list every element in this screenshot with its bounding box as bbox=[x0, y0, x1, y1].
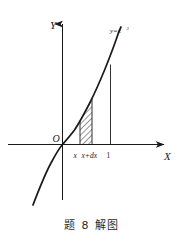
curve-label-exponent: 3 bbox=[127, 26, 130, 31]
tick-label-one: 1 bbox=[107, 151, 111, 160]
figure-caption: 题 8 解图 bbox=[0, 216, 184, 232]
figure-root: y=x 3 O Y X x x+dx 1 题 8 解图 bbox=[0, 0, 184, 241]
curve-y-equals-x-cubed bbox=[33, 27, 121, 205]
tick-label-x: x bbox=[73, 151, 78, 160]
curve-label: y=x bbox=[109, 27, 122, 35]
x-axis-label: X bbox=[163, 150, 172, 162]
origin-label: O bbox=[53, 133, 60, 144]
cubic-curve-plot: y=x 3 O Y X x x+dx 1 bbox=[0, 0, 184, 214]
differential-strip-fill bbox=[80, 99, 92, 145]
plot-area: y=x 3 O Y X x x+dx 1 bbox=[0, 0, 184, 214]
y-axis-label: Y bbox=[50, 19, 58, 31]
tick-label-x-plus-dx: x+dx bbox=[81, 151, 98, 160]
